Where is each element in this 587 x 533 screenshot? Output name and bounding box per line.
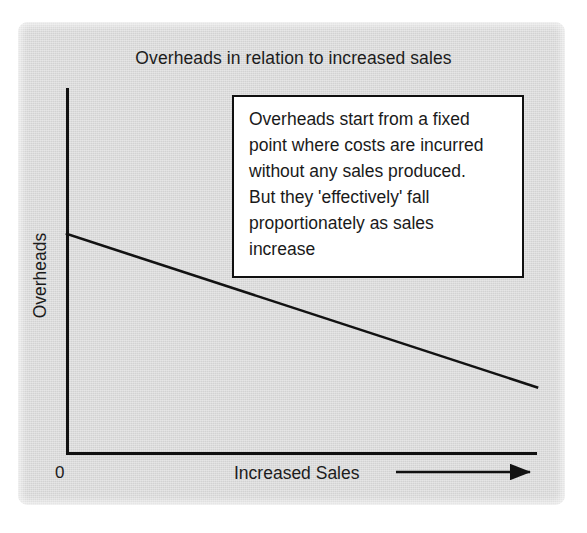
- annotation-line: Overheads start from a fixed: [249, 106, 517, 132]
- origin-label: 0: [55, 463, 64, 483]
- x-axis-line: [66, 452, 537, 455]
- annotation-callout-box: Overheads start from a fixed point where…: [232, 95, 524, 278]
- y-axis-line: [66, 88, 69, 455]
- figure-container: Overheads in relation to increased sales…: [0, 0, 587, 533]
- annotation-line: point where costs are incurred: [249, 132, 517, 158]
- x-axis-label: Increased Sales: [234, 463, 360, 484]
- chart-title: Overheads in relation to increased sales: [0, 48, 587, 69]
- annotation-text: Overheads start from a fixed point where…: [249, 106, 517, 262]
- annotation-line: increase: [249, 236, 517, 262]
- annotation-line: without any sales produced.: [249, 158, 517, 184]
- annotation-line: But they 'effectively' fall: [249, 184, 517, 210]
- y-axis-label: Overheads: [30, 206, 51, 346]
- annotation-line: proportionately as sales: [249, 210, 517, 236]
